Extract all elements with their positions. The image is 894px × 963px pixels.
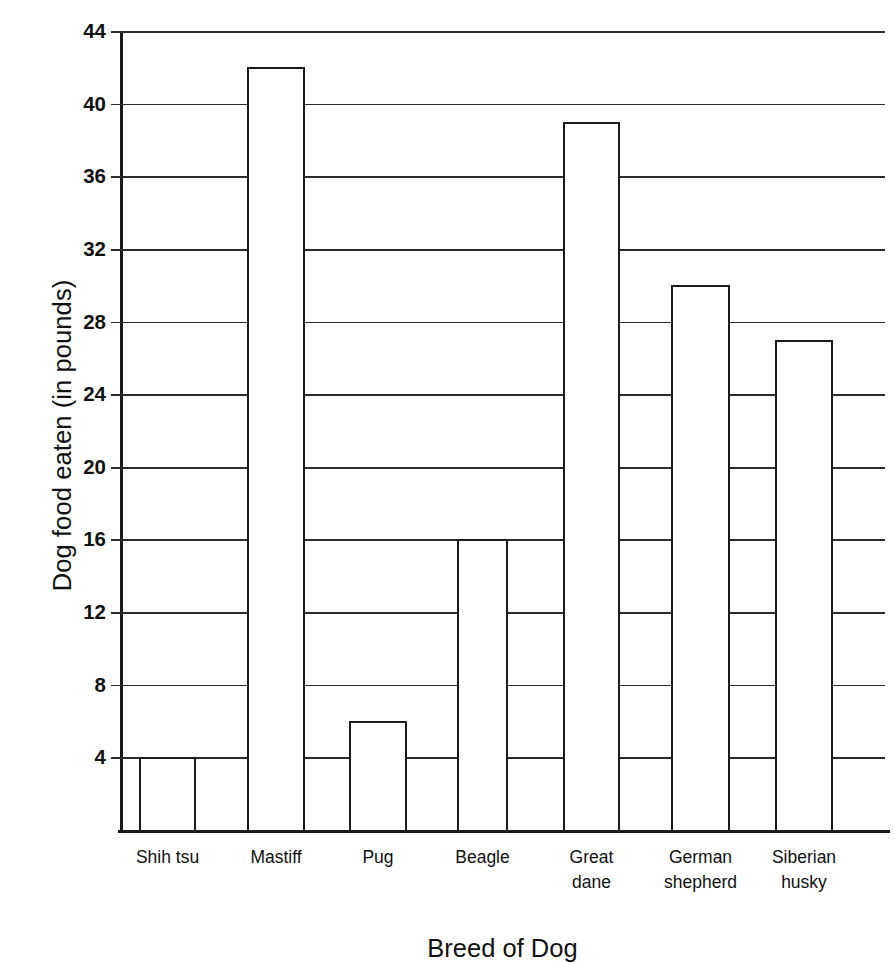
bar <box>671 285 730 830</box>
y-axis-line <box>120 31 123 830</box>
x-tick-label: German shepherd <box>664 845 737 895</box>
y-tick-mark-12 <box>111 612 122 614</box>
y-tick-label-32: 32 <box>36 237 110 261</box>
gridline-24 <box>120 394 885 396</box>
y-tick-label-4: 4 <box>36 745 110 769</box>
bar <box>775 340 833 830</box>
y-tick-mark-36 <box>111 176 122 178</box>
x-axis-line <box>118 830 890 833</box>
y-tick-mark-24 <box>111 394 122 396</box>
gridline-36 <box>120 176 885 178</box>
y-tick-mark-20 <box>111 467 122 469</box>
y-axis-tick-labels: 48121620242832364044 <box>36 0 110 956</box>
y-tick-mark-16 <box>111 539 122 541</box>
y-tick-mark-40 <box>111 104 122 106</box>
y-tick-mark-44 <box>111 31 122 33</box>
y-tick-label-8: 8 <box>36 673 110 697</box>
y-tick-label-44: 44 <box>36 19 110 43</box>
x-tick-label: Shih tsu <box>136 845 199 870</box>
y-tick-label-12: 12 <box>36 600 110 624</box>
gridline-32 <box>120 249 885 251</box>
y-tick-label-24: 24 <box>36 382 110 406</box>
x-tick-label: Mastiff <box>250 845 301 870</box>
y-tick-mark-8 <box>111 685 122 687</box>
y-tick-mark-4 <box>111 757 122 759</box>
gridline-40 <box>120 104 885 106</box>
y-tick-mark-28 <box>111 322 122 324</box>
y-tick-mark-32 <box>111 249 122 251</box>
plot-area <box>120 31 885 830</box>
x-tick-label: Pug <box>362 845 393 870</box>
x-tick-label: Great dane <box>570 845 614 895</box>
y-tick-label-16: 16 <box>36 527 110 551</box>
gridline-44 <box>120 31 885 33</box>
bar <box>563 122 620 830</box>
x-axis-title: Breed of Dog <box>120 934 885 963</box>
bar <box>349 721 407 830</box>
bar <box>247 67 305 830</box>
y-tick-label-28: 28 <box>36 310 110 334</box>
x-tick-label: Beagle <box>455 845 510 870</box>
x-tick-label: Siberian husky <box>772 845 836 895</box>
gridline-28 <box>120 322 885 324</box>
x-axis-tick-labels: Shih tsuMastiffPugBeagleGreat daneGerman… <box>120 845 885 915</box>
gridline-20 <box>120 467 885 469</box>
bar <box>139 757 196 830</box>
y-tick-label-36: 36 <box>36 164 110 188</box>
y-tick-label-40: 40 <box>36 92 110 116</box>
y-tick-label-20: 20 <box>36 455 110 479</box>
bar <box>457 539 508 830</box>
